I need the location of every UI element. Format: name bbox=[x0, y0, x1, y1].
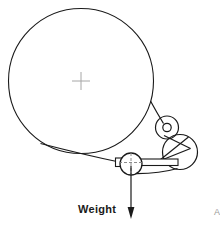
pulley-weight-diagram: Weight A bbox=[0, 0, 220, 232]
diagram-background bbox=[0, 0, 220, 232]
diagram-canvas: Weight A bbox=[0, 0, 220, 232]
edge-fragment-label: A bbox=[214, 207, 220, 217]
weight-label: Weight bbox=[78, 203, 116, 215]
